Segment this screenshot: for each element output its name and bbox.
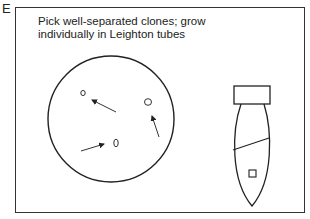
colony-icon — [81, 90, 85, 95]
petri-dish — [48, 56, 174, 182]
arrow-icon — [152, 116, 159, 137]
colony-icon — [114, 139, 118, 147]
diagram-canvas — [0, 0, 310, 219]
arrow-icon — [81, 144, 104, 151]
coverslip — [249, 170, 256, 177]
arrow-icon — [92, 100, 116, 112]
colony-icon — [145, 99, 152, 106]
tube-cap — [234, 86, 270, 104]
leighton-tube — [233, 86, 270, 206]
medium-line — [233, 138, 269, 150]
tube-body — [235, 104, 270, 206]
